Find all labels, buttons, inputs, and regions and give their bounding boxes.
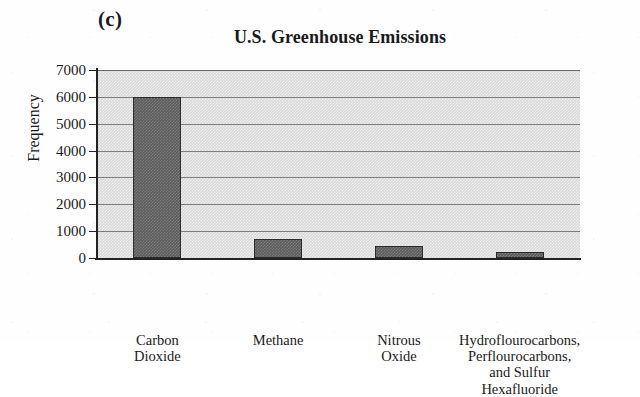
category-label-line: Hydroflourocarbons, bbox=[447, 332, 592, 348]
category-label-line: Perflourocarbons, bbox=[447, 348, 592, 364]
tick-mark bbox=[89, 124, 96, 125]
tick-mark bbox=[89, 258, 96, 259]
y-axis-tick-label: 7000 bbox=[56, 63, 86, 78]
y-axis-title: Frequency bbox=[26, 73, 42, 183]
y-axis-tick-label: 5000 bbox=[56, 116, 86, 131]
category-label-line: Dioxide bbox=[85, 348, 230, 364]
bar bbox=[254, 239, 302, 258]
x-axis-line bbox=[95, 258, 581, 260]
tick-mark bbox=[89, 204, 96, 205]
plot-area bbox=[97, 70, 580, 258]
y-axis-tick-label: 1000 bbox=[56, 224, 86, 239]
category-label-line: Hexafluoride bbox=[447, 381, 592, 397]
tick-mark bbox=[89, 97, 96, 98]
bar bbox=[375, 246, 423, 258]
tick-mark bbox=[89, 231, 96, 232]
panel-letter: (c) bbox=[98, 9, 122, 30]
y-axis-tick-label: 4000 bbox=[56, 143, 86, 158]
x-axis-category-label: Hydroflourocarbons,Perflourocarbons,and … bbox=[447, 332, 592, 397]
y-axis-tick-label: 2000 bbox=[56, 197, 86, 212]
tick-mark bbox=[89, 177, 96, 178]
bar bbox=[133, 97, 181, 258]
chart-title: U.S. Greenhouse Emissions bbox=[190, 28, 490, 48]
y-axis-line bbox=[96, 68, 98, 260]
category-label-line: and Sulfur bbox=[447, 364, 592, 380]
plot-region: 01000200030004000500060007000 CarbonDiox… bbox=[97, 70, 580, 258]
gridline bbox=[97, 70, 580, 71]
y-axis-tick-label: 0 bbox=[79, 251, 87, 266]
y-axis-tick-label: 3000 bbox=[56, 170, 86, 185]
y-axis-tick-label: 6000 bbox=[56, 89, 86, 104]
tick-mark bbox=[89, 70, 96, 71]
tick-mark bbox=[89, 151, 96, 152]
